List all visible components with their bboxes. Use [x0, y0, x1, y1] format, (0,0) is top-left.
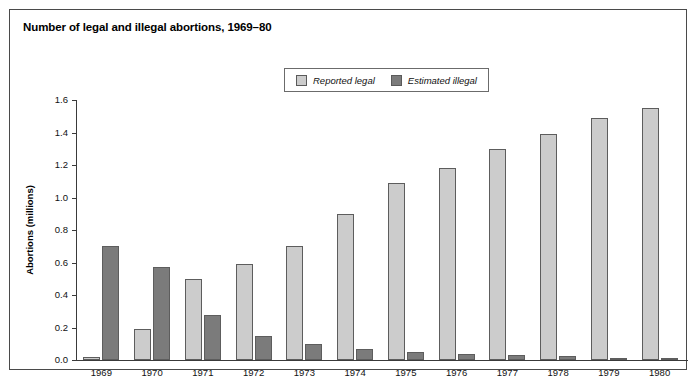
y-axis-tick-label: 1.0 [55, 192, 68, 203]
y-axis-tick-mark [72, 133, 76, 134]
x-axis-tick-label: 1977 [482, 367, 533, 378]
bar-estimated-illegal-1977 [508, 355, 525, 360]
legend-swatch-icon [391, 75, 402, 86]
y-axis-tick-mark [72, 360, 76, 361]
x-axis-tick-label: 1971 [178, 367, 229, 378]
bar-group-1972 [236, 100, 272, 360]
bar-estimated-illegal-1972 [255, 336, 272, 360]
bar-reported-legal-1977 [489, 149, 506, 360]
legend-label: Estimated illegal [408, 75, 477, 86]
figure-frame: Number of legal and illegal abortions, 1… [9, 9, 687, 370]
bar-reported-legal-1976 [439, 168, 456, 360]
bar-reported-legal-1971 [185, 279, 202, 360]
y-axis-tick-label: 0.8 [55, 224, 68, 235]
bar-estimated-illegal-1971 [204, 315, 221, 361]
bar-group-1978 [540, 100, 576, 360]
x-axis-tick-label: 1975 [381, 367, 432, 378]
x-axis-tick-label: 1980 [634, 367, 685, 378]
page-title: Number of legal and illegal abortions, 1… [23, 21, 271, 33]
bar-estimated-illegal-1974 [356, 349, 373, 360]
legend-estimated-illegal: Estimated illegal [391, 75, 477, 86]
bar-group-1970 [134, 100, 170, 360]
bar-reported-legal-1970 [134, 329, 151, 360]
legend-swatch-icon [296, 75, 307, 86]
y-axis-tick-mark [72, 295, 76, 296]
bar-group-1975 [388, 100, 424, 360]
y-axis-tick-label: 0.0 [55, 354, 68, 365]
bar-group-1976 [439, 100, 475, 360]
bar-reported-legal-1974 [337, 214, 354, 360]
bar-group-1971 [185, 100, 221, 360]
bar-estimated-illegal-1970 [153, 267, 170, 360]
y-axis-tick-label: 0.4 [55, 289, 68, 300]
bar-estimated-illegal-1978 [559, 356, 576, 360]
bar-reported-legal-1969 [83, 357, 100, 360]
x-axis-line [76, 360, 688, 361]
y-axis-tick-mark [72, 165, 76, 166]
y-axis-tick-label: 0.2 [55, 322, 68, 333]
bar-reported-legal-1975 [388, 183, 405, 360]
bar-reported-legal-1972 [236, 264, 253, 360]
bar-reported-legal-1979 [591, 118, 608, 360]
x-axis-tick-label: 1974 [330, 367, 381, 378]
x-axis-tick-label: 1973 [279, 367, 330, 378]
legend-reported-legal: Reported legal [296, 75, 375, 86]
x-axis-tick-label: 1970 [127, 367, 178, 378]
bar-group-1969 [83, 100, 119, 360]
bar-group-1980 [642, 100, 678, 360]
y-axis-tick-mark [72, 198, 76, 199]
bar-estimated-illegal-1980 [661, 358, 678, 361]
bar-estimated-illegal-1969 [102, 246, 119, 360]
x-axis-tick-label: 1969 [76, 367, 127, 378]
y-axis-title: Abortions (millions) [23, 100, 37, 360]
y-axis-tick-mark [72, 100, 76, 101]
bar-estimated-illegal-1976 [458, 354, 475, 360]
x-axis-tick-label: 1976 [431, 367, 482, 378]
legend-label: Reported legal [313, 75, 375, 86]
y-axis-tick-mark [72, 230, 76, 231]
y-axis-tick-label: 1.2 [55, 159, 68, 170]
bar-reported-legal-1978 [540, 134, 557, 360]
bar-reported-legal-1973 [286, 246, 303, 360]
bar-group-1973 [286, 100, 322, 360]
x-axis-tick-label: 1979 [584, 367, 635, 378]
y-axis-tick-label: 1.6 [55, 94, 68, 105]
plot-area: 0.00.20.40.60.81.01.21.41.6 [76, 100, 685, 360]
bar-reported-legal-1980 [642, 108, 659, 360]
x-axis-tick-label: 1978 [533, 367, 584, 378]
bar-group-1979 [591, 100, 627, 360]
bar-estimated-illegal-1973 [305, 344, 322, 360]
bar-group-1974 [337, 100, 373, 360]
bar-group-1977 [489, 100, 525, 360]
chart-legend: Reported legalEstimated illegal [284, 68, 489, 92]
x-axis-tick-label: 1972 [228, 367, 279, 378]
y-axis-tick-label: 0.6 [55, 257, 68, 268]
bar-estimated-illegal-1975 [407, 352, 424, 360]
y-axis-tick-mark [72, 263, 76, 264]
y-axis-tick-mark [72, 328, 76, 329]
bar-estimated-illegal-1979 [610, 358, 627, 361]
y-axis-tick-label: 1.4 [55, 127, 68, 138]
